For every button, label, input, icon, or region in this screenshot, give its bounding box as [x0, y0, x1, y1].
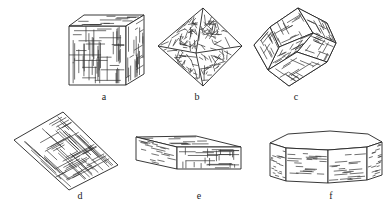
panel-a-cube [69, 15, 144, 85]
panel-d-thin-plate [14, 112, 118, 190]
panel-c-rhombic-dodecahedron [254, 8, 336, 86]
panel-f-octagonal-prism [270, 131, 382, 183]
label-a: a [102, 91, 107, 102]
label-d: d [78, 190, 83, 201]
prism-side-face [286, 148, 328, 183]
label-b: b [195, 91, 200, 102]
label-f: f [329, 190, 333, 201]
prism-side-face [270, 143, 286, 181]
plate-outline [14, 112, 118, 190]
prism-side-face [328, 147, 367, 183]
crystal-habit-figure: a b c d e f [0, 0, 385, 205]
label-c: c [294, 91, 299, 102]
label-e: e [197, 190, 202, 201]
panel-b-octahedron [158, 8, 242, 86]
panel-e-tabular-prism [136, 136, 241, 169]
